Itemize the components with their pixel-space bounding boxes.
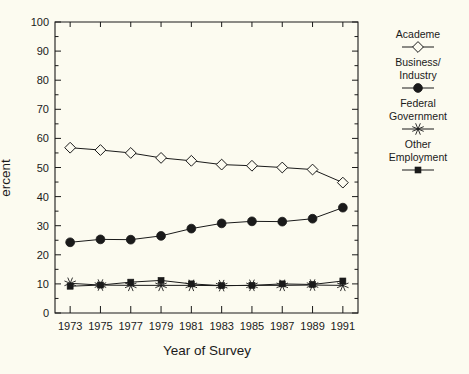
x-tick-label: 1981: [179, 320, 203, 332]
legend-label: Employment: [389, 151, 447, 163]
x-tick-label: 1979: [149, 320, 173, 332]
y-tick-label: 70: [37, 103, 49, 115]
data-point-filled-circle: [66, 238, 75, 247]
y-tick-label: 10: [37, 278, 49, 290]
line-chart: 0102030405060708090100 19731975197719791…: [0, 0, 469, 374]
data-point-filled-circle: [278, 217, 287, 226]
y-axis-title: ercent: [0, 159, 13, 197]
x-tick-label: 1975: [88, 320, 112, 332]
data-point-filled-circle: [338, 203, 347, 212]
legend-label: Other: [405, 138, 432, 150]
data-point-small-filled-square: [249, 282, 255, 288]
legend-label: Federal: [400, 97, 436, 109]
data-point-filled-circle: [187, 224, 196, 233]
legend-marker-filled-circle: [414, 84, 423, 93]
y-tick-label: 30: [37, 220, 49, 232]
data-point-small-filled-square: [279, 281, 285, 287]
y-tick-label: 0: [43, 307, 49, 319]
legend-label: Government: [389, 110, 447, 122]
data-point-filled-circle: [308, 214, 317, 223]
chart-figure: 0102030405060708090100 19731975197719791…: [0, 0, 469, 374]
data-point-small-filled-square: [67, 283, 73, 289]
legend-marker-small-filled-square: [415, 167, 421, 173]
data-point-small-filled-square: [128, 279, 134, 285]
data-point-filled-circle: [157, 231, 166, 240]
x-axis-title: Year of Survey: [163, 343, 251, 358]
data-point-small-filled-square: [340, 278, 346, 284]
y-tick-label: 60: [37, 132, 49, 144]
data-point-filled-circle: [248, 217, 257, 226]
x-tick-label: 1987: [270, 320, 294, 332]
data-point-small-filled-square: [158, 277, 164, 283]
y-tick-label: 80: [37, 74, 49, 86]
y-tick-label: 90: [37, 45, 49, 57]
y-tick-label: 100: [31, 16, 49, 28]
x-tick-label: 1991: [331, 320, 355, 332]
x-tick-label: 1983: [209, 320, 233, 332]
data-point-filled-circle: [217, 219, 226, 228]
data-point-small-filled-square: [219, 283, 225, 289]
legend-label: Industry: [399, 69, 437, 81]
y-tick-label: 50: [37, 162, 49, 174]
legend-label: Business/: [395, 56, 441, 68]
legend-label: Academe: [396, 28, 441, 40]
y-tick-label: 20: [37, 249, 49, 261]
x-tick-label: 1989: [300, 320, 324, 332]
x-tick-label: 1977: [119, 320, 143, 332]
y-tick-label: 40: [37, 191, 49, 203]
x-tick-label: 1985: [240, 320, 264, 332]
data-point-small-filled-square: [188, 281, 194, 287]
data-point-small-filled-square: [310, 281, 316, 287]
data-point-filled-circle: [126, 235, 135, 244]
x-tick-label: 1973: [58, 320, 82, 332]
data-point-small-filled-square: [97, 282, 103, 288]
data-point-filled-circle: [96, 235, 105, 244]
